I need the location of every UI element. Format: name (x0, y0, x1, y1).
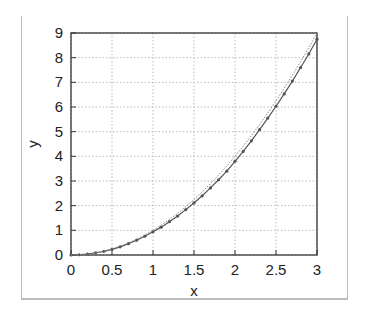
y-tick-label: 2 (55, 197, 63, 214)
x-axis-label: x (190, 282, 198, 299)
data-point-marker (201, 194, 204, 197)
data-point-marker (192, 201, 195, 204)
data-point-marker (274, 105, 277, 108)
data-point-marker (217, 178, 220, 181)
plot-area-border (71, 33, 317, 255)
data-point-marker (176, 214, 179, 217)
data-point-marker (242, 150, 245, 153)
x-tick-label: 3 (313, 261, 321, 278)
line-chart: 00.511.522.530123456789 x y (0, 0, 367, 312)
axis-ticks: 00.511.522.530123456789 (55, 24, 322, 278)
data-point-marker (283, 92, 286, 95)
data-point-marker (307, 52, 310, 55)
data-point-marker (233, 160, 236, 163)
data-point-marker (160, 226, 163, 229)
x-tick-label: 0.5 (102, 261, 123, 278)
data-point-marker (209, 186, 212, 189)
data-point-marker (299, 66, 302, 69)
data-point-marker (291, 80, 294, 83)
y-tick-label: 6 (55, 98, 63, 115)
data-point-marker (266, 117, 269, 120)
y-tick-label: 0 (55, 246, 63, 263)
x-tick-label: 0 (67, 261, 75, 278)
x-tick-label: 1 (149, 261, 157, 278)
series-dotted (71, 33, 317, 255)
data-point-marker (184, 208, 187, 211)
data-point-marker (151, 230, 154, 233)
data-point-marker (258, 128, 261, 131)
data-point-marker (225, 170, 228, 173)
x-tick-label: 1.5 (184, 261, 205, 278)
data-point-marker (250, 139, 253, 142)
y-tick-label: 7 (55, 73, 63, 90)
x-tick-label: 2 (231, 261, 239, 278)
y-tick-label: 5 (55, 123, 63, 140)
data-point-marker (315, 38, 318, 41)
y-tick-label: 4 (55, 147, 63, 164)
y-tick-label: 9 (55, 24, 63, 41)
y-axis-label: y (24, 140, 41, 148)
grid-lines (71, 33, 317, 255)
data-point-marker (168, 220, 171, 223)
y-tick-label: 1 (55, 221, 63, 238)
x-tick-label: 2.5 (266, 261, 287, 278)
y-tick-label: 3 (55, 172, 63, 189)
y-tick-label: 8 (55, 49, 63, 66)
